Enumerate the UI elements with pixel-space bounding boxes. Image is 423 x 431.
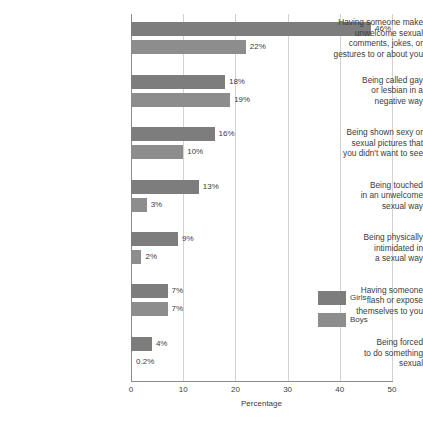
category-label-4: Being physically intimidated in a sexual… (299, 232, 423, 264)
bar-value-label: 2% (145, 250, 157, 264)
legend-swatch-boys (318, 313, 346, 327)
bar-chart: 46%22%18%19%16%10%13%3%9%2%7%7%4%0.2% Ha… (0, 0, 423, 431)
bar-value-label: 22% (250, 40, 266, 54)
bar-value-label: 3% (151, 198, 163, 212)
legend-label-girls: Girls (350, 291, 366, 305)
bar-value-label: 0.2% (136, 355, 154, 369)
bar-girls-4 (131, 232, 178, 246)
x-axis-line (131, 381, 393, 382)
bar-girls-6 (131, 337, 152, 351)
category-label-2: Being shown sexy or sexual pictures that… (299, 127, 423, 159)
x-tick-label: 50 (377, 385, 407, 394)
bar-boys-1 (131, 93, 230, 107)
category-label-0: Having someone make unwelcome sexual com… (299, 17, 423, 59)
category-label-1: Being called gay or lesbian in a negativ… (299, 75, 423, 107)
bar-boys-5 (131, 302, 168, 316)
bar-value-label: 19% (234, 93, 250, 107)
bar-boys-6 (131, 355, 132, 369)
legend-swatch-girls (318, 291, 346, 305)
legend-label-boys: Boys (350, 313, 368, 327)
category-label-6: Being forced to do something sexual (299, 337, 423, 369)
bar-value-label: 7% (172, 302, 184, 316)
bar-value-label: 18% (229, 75, 245, 89)
bar-value-label: 10% (187, 145, 203, 159)
bar-value-label: 16% (219, 127, 235, 141)
bar-value-label: 9% (182, 232, 194, 246)
bar-boys-2 (131, 145, 183, 159)
bar-girls-2 (131, 127, 215, 141)
bar-value-label: 7% (172, 284, 184, 298)
x-tick-label: 40 (325, 385, 355, 394)
bar-boys-0 (131, 40, 246, 54)
x-tick-label: 0 (116, 385, 146, 394)
bar-boys-4 (131, 250, 141, 264)
gridline (235, 14, 236, 381)
x-tick-label: 30 (273, 385, 303, 394)
bar-girls-5 (131, 284, 168, 298)
bar-value-label: 13% (203, 180, 219, 194)
gridline (183, 14, 184, 381)
bar-value-label: 4% (156, 337, 168, 351)
gridline (288, 14, 289, 381)
bar-girls-1 (131, 75, 225, 89)
x-axis-title: Percentage (131, 399, 392, 408)
bar-boys-3 (131, 198, 147, 212)
bar-girls-3 (131, 180, 199, 194)
x-tick-label: 10 (168, 385, 198, 394)
x-tick-label: 20 (220, 385, 250, 394)
category-label-3: Being touched in an unwelcome sexual way (299, 180, 423, 212)
